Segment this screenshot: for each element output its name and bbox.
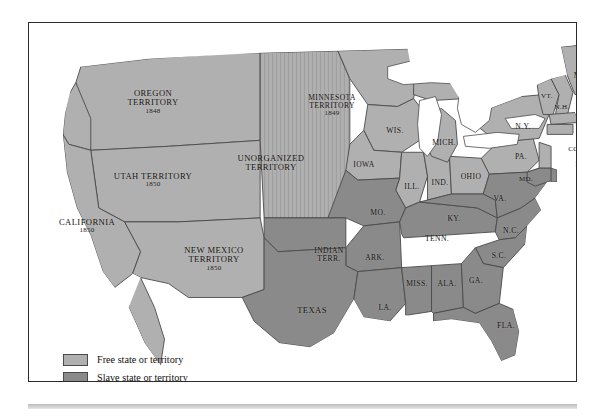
region-new-mexico-territory [125, 218, 264, 298]
legend-slave: Slave state or territory [63, 369, 278, 382]
legend-free-label: Free state or territory [97, 354, 183, 365]
region-arkansas [346, 222, 402, 272]
region-louisiana [354, 268, 406, 322]
legend-slave-label: Slave state or territory [97, 372, 188, 382]
legend-free-swatch [63, 354, 88, 366]
region-oregon-territory [76, 53, 260, 150]
legend-free: Free state or territory [63, 351, 278, 368]
region-new-jersey [539, 142, 551, 168]
region-mississippi [402, 266, 432, 316]
region-indian-territory [264, 218, 346, 252]
bottom-divider-bar [28, 404, 577, 409]
region-connecticut-ri [547, 124, 573, 134]
region-delaware [551, 168, 557, 182]
region-unorganized-territory [260, 51, 350, 218]
region-alabama [432, 264, 464, 314]
map-legend: Free state or territorySlave state or te… [63, 351, 278, 382]
region-wisconsin [364, 99, 426, 153]
us-map-1850 [29, 23, 576, 381]
region-utah-territory [91, 140, 260, 222]
legend-slave-swatch [63, 372, 88, 383]
region-massachusetts [549, 113, 576, 125]
map-figure: OREGON TERRITORY1848UTAH TERRITORY1850CA… [0, 0, 605, 417]
map-frame: OREGON TERRITORY1848UTAH TERRITORY1850CA… [28, 22, 577, 382]
